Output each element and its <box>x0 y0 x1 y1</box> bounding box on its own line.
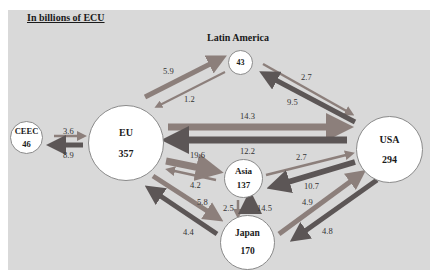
flow-label-japan-to-eu: 4.4 <box>183 227 194 237</box>
japan-value: 170 <box>240 247 254 257</box>
node-ceec: CEEC 46 <box>10 121 43 154</box>
eu-name: EU <box>119 128 133 138</box>
flow-label-eu-to-latam: 5.9 <box>163 66 174 76</box>
flow-label-japan-to-asia: 14.5 <box>257 203 272 213</box>
arrow-eu-to-latam <box>145 60 218 97</box>
arrow-usa-to-latam <box>268 76 355 122</box>
asia-name: Asia <box>235 167 252 176</box>
flow-label-usa-to-japan: 4.8 <box>322 226 333 236</box>
flow-label-asia-to-eu: 4.2 <box>190 180 201 190</box>
latin-america-label: Latin America <box>207 32 269 43</box>
flow-label-latam-to-usa: 2.7 <box>301 72 312 82</box>
flow-label-usa-to-latam: 9.5 <box>287 97 298 107</box>
ceec-name: CEEC <box>15 127 39 136</box>
node-eu: EU 357 <box>88 105 164 181</box>
flow-label-usa-to-eu: 12.2 <box>240 146 255 156</box>
arrow-eu-to-asia <box>166 161 210 170</box>
flow-label-ceec-to-eu: 3.6 <box>63 126 74 136</box>
flow-label-asia-to-japan: 2.5 <box>223 203 234 213</box>
node-latin-america: 43 <box>228 50 253 75</box>
node-usa: USA 294 <box>356 116 423 183</box>
flow-label-latam-to-eu: 1.2 <box>184 94 195 104</box>
flow-label-usa-to-asia: 10.7 <box>304 181 319 191</box>
ceec-value: 46 <box>22 140 31 149</box>
flow-label-japan-to-usa: 4.9 <box>302 197 313 207</box>
node-japan: Japan 170 <box>220 215 275 270</box>
japan-name: Japan <box>235 229 260 239</box>
usa-name: USA <box>379 135 399 145</box>
latin-america-value: 43 <box>237 59 245 67</box>
diagram-title: In billions of ECU <box>27 12 105 23</box>
flow-label-eu-to-japan: 5.8 <box>197 197 208 207</box>
flow-label-asia-to-usa: 2.7 <box>296 152 307 162</box>
asia-value: 137 <box>237 181 251 190</box>
usa-value: 294 <box>382 155 397 165</box>
eu-value: 357 <box>119 149 134 159</box>
flow-label-eu-to-usa: 14.3 <box>240 111 255 121</box>
node-asia: Asia 137 <box>224 159 263 198</box>
flow-label-eu-to-asia: 19.6 <box>190 150 205 160</box>
flow-label-eu-to-ceec: 8.9 <box>63 150 74 160</box>
